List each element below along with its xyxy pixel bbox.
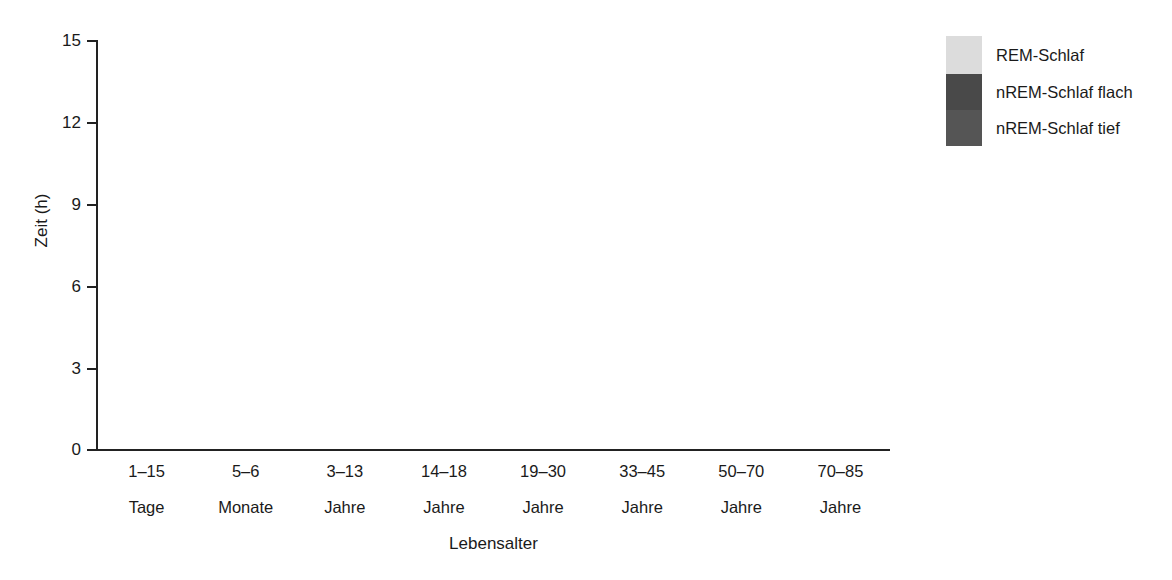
x-tick-label-2: 3–13 Jahre (295, 458, 394, 520)
x-tick-label-7-unit: Jahre (791, 494, 890, 520)
plot-area (97, 40, 890, 450)
x-tick-label-3: 14–18 Jahre (394, 458, 493, 520)
y-tick-mark-3 (87, 368, 96, 370)
y-tick-mark-9 (87, 204, 96, 206)
y-tick-label-12: 12 (49, 114, 81, 131)
x-tick-label-2-range: 3–13 (295, 458, 394, 484)
legend-swatch-nrem-schlaf-tief (946, 110, 982, 146)
x-tick-label-1: 5–6 Monate (196, 458, 295, 520)
x-tick-label-2-unit: Jahre (295, 494, 394, 520)
legend-swatch-stack (946, 36, 982, 146)
x-tick-label-3-unit: Jahre (394, 494, 493, 520)
y-tick-mark-6 (87, 286, 96, 288)
legend-label-rem-schlaf: REM-Schlaf (996, 47, 1084, 64)
x-tick-label-7: 70–85 Jahre (791, 458, 890, 520)
y-tick-label-6: 6 (49, 278, 81, 295)
x-tick-label-1-range: 5–6 (196, 458, 295, 484)
x-tick-label-5-unit: Jahre (593, 494, 692, 520)
y-tick-label-3: 3 (49, 360, 81, 377)
legend-swatch-nrem-schlaf-flach (946, 74, 982, 110)
x-tick-label-3-range: 14–18 (394, 458, 493, 484)
x-axis-tick-labels: 1–15 Tage 5–6 Monate 3–13 Jahre 14–18 Ja… (97, 458, 890, 520)
legend-label-nrem-schlaf-tief: nREM-Schlaf tief (996, 120, 1120, 137)
x-tick-label-6-unit: Jahre (692, 494, 791, 520)
y-tick-mark-12 (87, 122, 96, 124)
sleep-stages-bar-chart: 15 12 9 6 3 0 Zeit (h) 1–15 Tage 5–6 Mon… (0, 0, 1172, 580)
x-tick-label-4: 19–30 Jahre (494, 458, 593, 520)
y-tick-mark-0 (87, 449, 96, 451)
legend-swatch-rem-schlaf (946, 36, 982, 74)
y-tick-label-15: 15 (49, 32, 81, 49)
x-tick-label-4-range: 19–30 (494, 458, 593, 484)
x-tick-label-5-range: 33–45 (593, 458, 692, 484)
y-axis-title: Zeit (h) (33, 166, 50, 276)
y-tick-label-9: 9 (49, 196, 81, 213)
x-tick-label-1-unit: Monate (196, 494, 295, 520)
x-tick-label-4-unit: Jahre (494, 494, 593, 520)
legend-label-list: REM-Schlaf nREM-Schlaf flach nREM-Schlaf… (996, 36, 1172, 146)
x-tick-label-0-range: 1–15 (97, 458, 196, 484)
x-tick-label-6: 50–70 Jahre (692, 458, 791, 520)
x-tick-label-6-range: 50–70 (692, 458, 791, 484)
legend-label-nrem-schlaf-flach: nREM-Schlaf flach (996, 84, 1133, 101)
y-tick-label-0: 0 (49, 441, 81, 458)
y-tick-mark-15 (87, 40, 96, 42)
legend: REM-Schlaf nREM-Schlaf flach nREM-Schlaf… (946, 36, 1172, 148)
x-tick-label-0: 1–15 Tage (97, 458, 196, 520)
x-tick-label-0-unit: Tage (97, 494, 196, 520)
x-tick-label-5: 33–45 Jahre (593, 458, 692, 520)
x-tick-label-7-range: 70–85 (791, 458, 890, 484)
x-axis-title: Lebensalter (97, 535, 890, 553)
